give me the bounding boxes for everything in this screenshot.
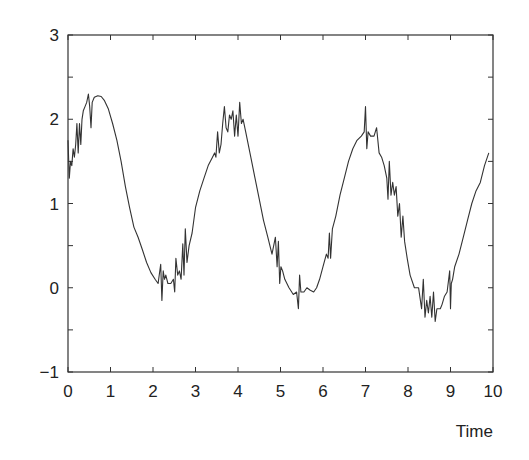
x-tick-label: 3 (191, 382, 200, 401)
plot-area (68, 35, 493, 372)
y-tick-label: −1 (40, 363, 59, 382)
x-tick-label: 0 (63, 382, 72, 401)
x-axis-tick-labels: 012345678910 (63, 382, 502, 401)
x-tick-label: 7 (361, 382, 370, 401)
signal-line (68, 94, 489, 321)
x-tick-label: 8 (403, 382, 412, 401)
x-tick-label: 4 (233, 382, 242, 401)
x-tick-label: 5 (276, 382, 285, 401)
x-tick-label: 10 (484, 382, 503, 401)
x-tick-label: 9 (446, 382, 455, 401)
line-chart: 012345678910 −10123 Time (0, 0, 529, 460)
y-tick-label: 1 (50, 195, 59, 214)
x-axis-title: Time (456, 422, 493, 441)
y-tick-label: 3 (50, 26, 59, 45)
axis-ticks (68, 35, 493, 372)
x-tick-label: 6 (318, 382, 327, 401)
y-axis-tick-labels: −10123 (40, 26, 59, 382)
x-tick-label: 1 (106, 382, 115, 401)
y-tick-label: 0 (50, 279, 59, 298)
plot-border (68, 35, 493, 372)
y-tick-label: 2 (50, 110, 59, 129)
x-tick-label: 2 (148, 382, 157, 401)
